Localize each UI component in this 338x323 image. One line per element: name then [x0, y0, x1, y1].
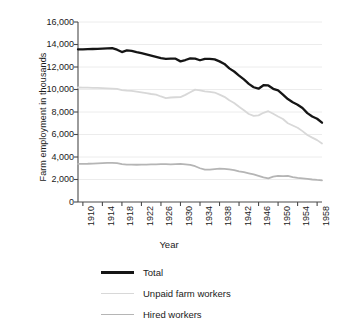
- legend-label: Hired workers: [143, 310, 202, 320]
- chart-legend: TotalUnpaid farm workersHired workers: [0, 262, 338, 323]
- x-axis-tick-label: 1922: [146, 206, 155, 236]
- x-axis-tick-label: 1954: [302, 206, 311, 236]
- legend-label: Unpaid farm workers: [143, 289, 231, 299]
- x-axis-tick-label: 1930: [185, 206, 194, 236]
- legend-item: Total: [0, 262, 338, 283]
- x-axis-title: Year: [0, 239, 338, 250]
- x-axis-tick-label: 1910: [87, 206, 96, 236]
- x-axis-tick-label: 1918: [126, 206, 135, 236]
- farm-employment-line-chart: Farm employment in thousands 16,00014,00…: [0, 0, 338, 323]
- legend-item: Hired workers: [0, 304, 338, 323]
- legend-label: Total: [143, 268, 163, 278]
- x-axis-tick-label: 1926: [165, 206, 174, 236]
- x-axis-tick-label: 1958: [322, 206, 331, 236]
- legend-line-icon: [101, 289, 134, 299]
- x-axis-tick-label: 1934: [205, 206, 214, 236]
- legend-item: Unpaid farm workers: [0, 283, 338, 304]
- x-axis-tick-label: 1946: [263, 206, 272, 236]
- x-axis-tick-label: 1942: [244, 206, 253, 236]
- x-axis-tick-label: 1938: [224, 206, 233, 236]
- x-axis-tick-label: 1950: [283, 206, 292, 236]
- legend-line-icon: [101, 268, 134, 278]
- x-axis-tick-label: 1914: [107, 206, 116, 236]
- legend-line-icon: [101, 310, 134, 320]
